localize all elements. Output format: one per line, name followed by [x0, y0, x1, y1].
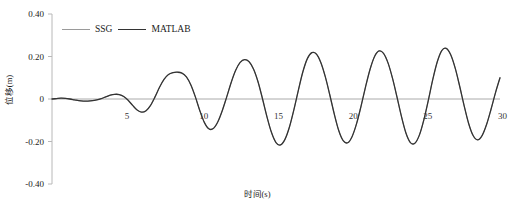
axis-group — [48, 14, 500, 184]
plot-area — [0, 0, 514, 213]
series-line-matlab — [52, 48, 500, 145]
chart-figure: 位移(m) 时间(s) SSG MATLAB 0.400.200-0.20-0.… — [0, 0, 514, 213]
series-line-ssg — [52, 48, 500, 145]
series-group — [52, 48, 500, 145]
